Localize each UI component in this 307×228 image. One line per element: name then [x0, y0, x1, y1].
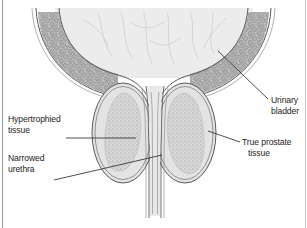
label-hypertrophied-tissue-line2: tissue [8, 125, 30, 135]
anatomy-diagram: Hypertrophied tissue Narrowed urethra Ur… [0, 0, 307, 228]
label-urinary-bladder: Urinary bladder [271, 95, 300, 116]
label-urinary-bladder-line2: bladder [271, 106, 299, 116]
label-narrowed-urethra-line2: urethra [8, 164, 35, 174]
label-true-prostate-tissue-line2: tissue [248, 148, 270, 158]
label-narrowed-urethra-line1: Narrowed [8, 153, 45, 163]
label-hypertrophied-tissue-line1: Hypertrophied [8, 114, 61, 124]
label-true-prostate-tissue-line1: True prostate [242, 137, 292, 147]
right-prostate-lobe [154, 83, 216, 183]
figure-frame: Hypertrophied tissue Narrowed urethra Ur… [0, 0, 307, 228]
left-prostate-lobe [92, 83, 154, 183]
label-urinary-bladder-line1: Urinary [271, 95, 299, 105]
